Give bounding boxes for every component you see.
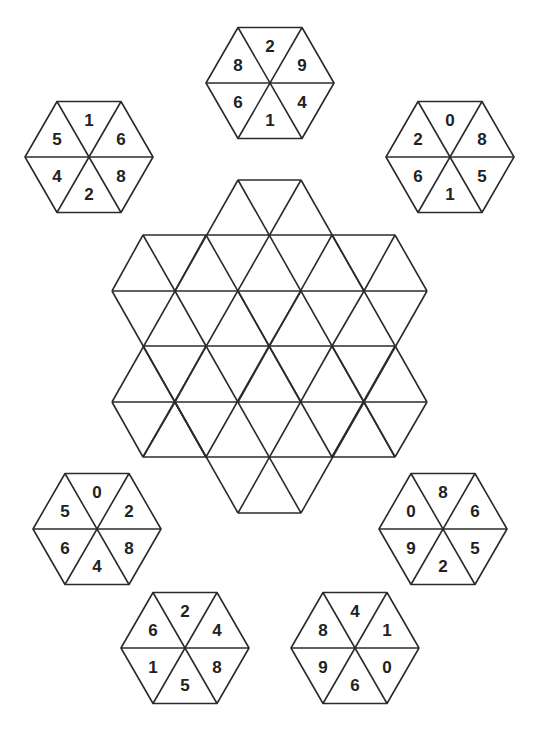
tile-number: 1 (84, 111, 93, 130)
grid-line (143, 402, 175, 457)
tile-top-left[interactable]: 168245 (25, 102, 153, 213)
tile-number: 6 (470, 502, 479, 521)
central-hexagram-grid[interactable] (112, 180, 427, 513)
tile-bottom-right[interactable]: 410698 (291, 593, 419, 704)
tile-number: 2 (84, 185, 93, 204)
tile-number: 4 (92, 557, 102, 576)
tile-number: 6 (413, 167, 422, 186)
tile-number: 1 (148, 658, 157, 677)
tile-number: 0 (382, 658, 391, 677)
grid-line (238, 291, 269, 346)
tile-number: 6 (148, 621, 157, 640)
tile-number: 2 (413, 130, 422, 149)
tile-number: 8 (116, 167, 125, 186)
tile-number: 9 (406, 539, 415, 558)
grid-line (332, 402, 364, 457)
tile-number: 4 (350, 602, 360, 621)
tile-number: 6 (233, 93, 242, 112)
tile-number: 2 (265, 37, 274, 56)
tile-number: 4 (297, 93, 307, 112)
tile-number: 8 (124, 539, 133, 558)
tile-number: 5 (477, 167, 486, 186)
grid-line (332, 291, 364, 346)
tile-number: 0 (406, 502, 415, 521)
tile-number: 4 (52, 167, 62, 186)
tile-number: 5 (180, 676, 189, 695)
grid-line (238, 346, 332, 513)
grid-line (364, 235, 395, 291)
tile-bottom-left[interactable]: 248516 (121, 593, 249, 704)
tile-number: 1 (265, 111, 274, 130)
grid-line (206, 346, 301, 513)
tile-number: 1 (382, 621, 391, 640)
grid-line (143, 235, 175, 291)
tile-number: 5 (60, 502, 69, 521)
puzzle-canvas: 2941681682450851620284658652902485164106… (0, 0, 539, 731)
tile-number: 9 (297, 56, 306, 75)
grid-line (175, 291, 206, 346)
grid-line (332, 346, 364, 402)
tile-number: 2 (438, 557, 447, 576)
tile-number: 2 (180, 602, 189, 621)
grid-line (175, 235, 206, 291)
grid-line (175, 346, 206, 402)
tile-top-right[interactable]: 085162 (386, 102, 514, 213)
tile-set: 2941681682450851620284658652902485164106… (25, 28, 514, 704)
tile-number: 0 (445, 111, 454, 130)
grid-line (269, 291, 301, 346)
tile-number: 8 (477, 130, 486, 149)
tile-middle-left[interactable]: 028465 (33, 474, 161, 585)
grid-line (364, 402, 395, 457)
grid-line (175, 402, 206, 457)
tile-number: 4 (212, 621, 222, 640)
grid-line (112, 402, 143, 457)
tile-number: 8 (212, 658, 221, 677)
tile-number: 2 (124, 502, 133, 521)
grid-line (332, 235, 364, 291)
tile-top[interactable]: 294168 (206, 28, 334, 139)
tile-number: 5 (470, 539, 479, 558)
grid-line (395, 235, 427, 291)
grid-line (112, 235, 143, 291)
grid-line (395, 402, 427, 457)
tile-middle-right[interactable]: 865290 (379, 474, 507, 585)
tile-number: 6 (60, 539, 69, 558)
tile-number: 9 (318, 658, 327, 677)
tile-number: 5 (52, 130, 61, 149)
tile-number: 8 (233, 56, 242, 75)
tile-number: 0 (92, 483, 101, 502)
tile-number: 8 (438, 483, 447, 502)
tile-number: 8 (318, 621, 327, 640)
tile-number: 6 (116, 130, 125, 149)
tile-number: 1 (445, 185, 454, 204)
tile-number: 6 (350, 676, 359, 695)
